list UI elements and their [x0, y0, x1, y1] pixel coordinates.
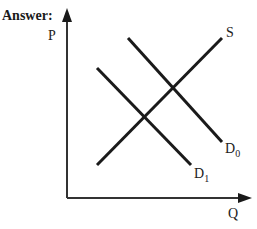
- x-axis: [67, 193, 252, 203]
- d0-label: D0: [225, 141, 240, 159]
- x-axis-label: Q: [228, 206, 238, 221]
- y-axis-arrow-icon: [62, 8, 72, 22]
- y-axis: [62, 8, 72, 198]
- y-axis-label: P: [48, 28, 56, 43]
- supply-label: S: [226, 25, 234, 40]
- supply-curve: [97, 38, 222, 165]
- d1-label: D1: [194, 166, 209, 184]
- supply-demand-diagram: P Q S D0 D1: [0, 0, 257, 229]
- x-axis-arrow-icon: [238, 193, 252, 203]
